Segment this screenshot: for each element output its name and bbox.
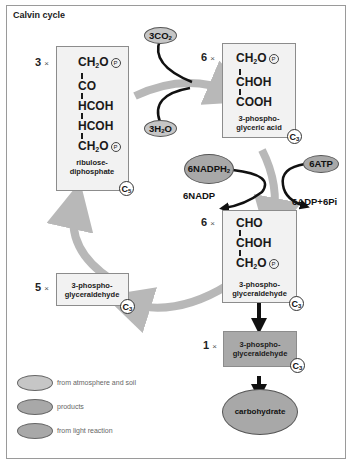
- carbohydrate-ellipse: carbohydrate: [222, 389, 298, 435]
- pga-formula: CH2OP CHOH COOH: [236, 52, 279, 108]
- g3p-output-multiplier: 1 ×: [203, 339, 217, 351]
- nadp-output-label: 6NADP: [183, 190, 215, 201]
- g3p-output-name: 3-phospho-glyceraldehyde: [226, 340, 294, 358]
- nadph-ellipse: 6NADPH2: [184, 154, 234, 184]
- legend-label-light-reaction: from light reaction: [57, 427, 113, 434]
- g3p-main-multiplier: 6 ×: [201, 216, 215, 228]
- adp-output-label: 6ADP+6Pi: [292, 196, 337, 207]
- g3p-output-carbon-badge: C3: [290, 358, 305, 373]
- h2o-curve: [158, 88, 190, 122]
- rubp-carbon-badge: C5: [119, 181, 134, 196]
- rubp-formula: CH2OP CO HCOH HCOH CH2OP: [78, 56, 121, 156]
- g3p-main-carbon-badge: C3: [289, 296, 304, 311]
- pga-carbon-badge: C3: [287, 129, 302, 144]
- h2o-ellipse: 3H2O: [144, 120, 177, 137]
- legend-swatch-atmosphere: [17, 375, 53, 391]
- atp-ellipse: 6ATP: [303, 155, 339, 173]
- legend-label-atmosphere: from atmosphere and soil: [57, 379, 136, 386]
- legend-label-products: products: [57, 403, 84, 410]
- cycle-arrows: [0, 0, 351, 464]
- g3p-recycle-carbon-badge: C3: [120, 299, 135, 314]
- arrow-recycle-to-rubp: [73, 205, 112, 280]
- g3p-main-formula: CHO CHOH CH2OP: [236, 217, 279, 273]
- legend-swatch-products: [17, 399, 53, 415]
- g3p-recycle-multiplier: 5 ×: [35, 281, 49, 293]
- co2-curve: [158, 40, 192, 82]
- arrow-g3p-to-recycle: [127, 285, 228, 308]
- pga-multiplier: 6 ×: [201, 51, 215, 63]
- g3p-main-name: 3-phospho-glyceraldehyde: [226, 280, 293, 298]
- pga-name: 3-phospho-glyceric acid: [226, 114, 292, 132]
- g3p-recycle-name: 3-phospho-glyceraldehyde: [58, 281, 126, 299]
- rubp-name: ribulose-diphosphate: [60, 158, 124, 176]
- co2-ellipse: 3CO2: [144, 27, 177, 44]
- rubp-multiplier: 3 ×: [35, 56, 49, 68]
- legend-swatch-light-reaction: [17, 423, 53, 439]
